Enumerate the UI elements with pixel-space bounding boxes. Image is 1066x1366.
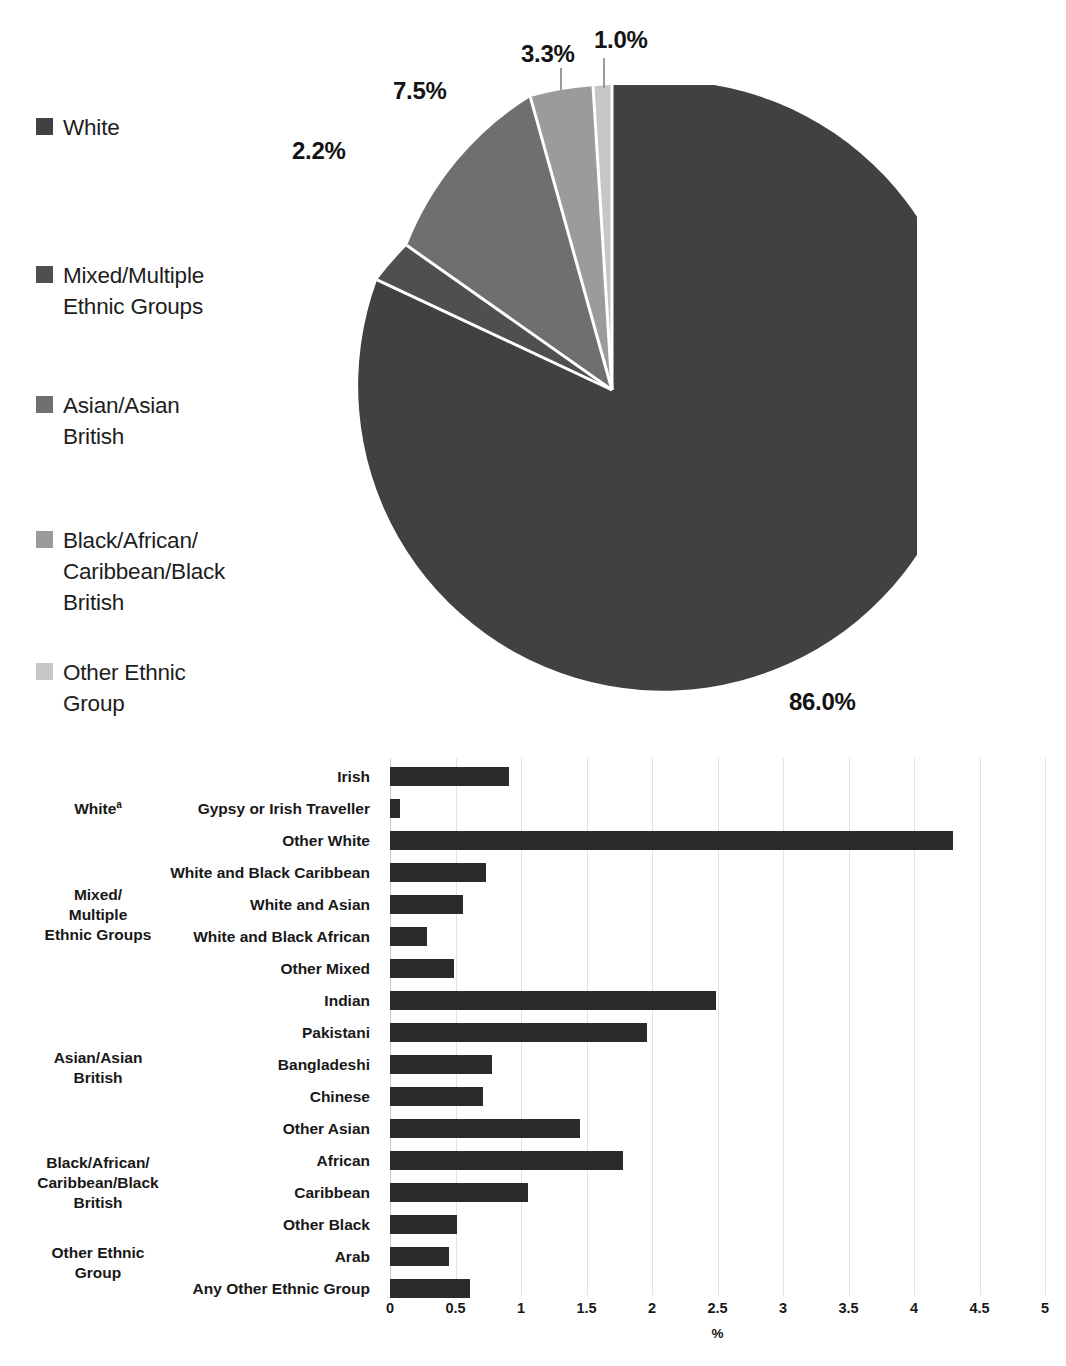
legend-label-asian-line2: British: [63, 424, 124, 449]
x-axis-tick-label: 3: [779, 1300, 787, 1316]
legend-label-mixed: Mixed/Multiple Ethnic Groups: [63, 260, 204, 322]
pie-svg: [307, 85, 917, 695]
legend-label-black-line3: British: [63, 590, 124, 615]
legend-label-black-line1: Black/African/: [63, 528, 198, 553]
legend-label-other-line2: Group: [63, 691, 125, 716]
legend-label-white: White: [63, 112, 120, 143]
legend-swatch-other: [36, 663, 53, 680]
bar[interactable]: [390, 1087, 483, 1106]
bar-x-axis: 00.511.522.533.544.55: [390, 1300, 1045, 1324]
bar[interactable]: [390, 991, 716, 1010]
x-axis-tick-label: 0.5: [445, 1300, 465, 1316]
bar[interactable]: [390, 927, 427, 946]
bar[interactable]: [390, 1183, 528, 1202]
legend-item-mixed[interactable]: Mixed/Multiple Ethnic Groups: [36, 260, 204, 322]
pie-value-label-black: 3.3%: [521, 40, 575, 68]
bar-plot-area: [390, 758, 1045, 1295]
bar[interactable]: [390, 767, 509, 786]
bar-chart-section: Whitea Mixed/ Multiple Ethnic Groups Asi…: [0, 748, 1066, 1366]
bar[interactable]: [390, 895, 463, 914]
x-axis-tick-label: 1.5: [576, 1300, 596, 1316]
pie-value-label-mixed: 2.2%: [292, 137, 346, 165]
legend-label-black: Black/African/ Caribbean/Black British: [63, 525, 225, 618]
legend-swatch-asian: [36, 396, 53, 413]
pie-value-label-asian: 7.5%: [393, 77, 447, 105]
legend-label-black-line2: Caribbean/Black: [63, 559, 225, 584]
bar[interactable]: [390, 1279, 470, 1298]
x-axis-tick-label: 5: [1041, 1300, 1049, 1316]
legend-label-mixed-line2: Ethnic Groups: [63, 294, 203, 319]
bar[interactable]: [390, 1247, 449, 1266]
legend-swatch-black: [36, 531, 53, 548]
bar[interactable]: [390, 1055, 492, 1074]
x-axis-tick-label: 0: [386, 1300, 394, 1316]
pie-value-label-other: 1.0%: [594, 26, 648, 54]
pie-graphic: [307, 85, 917, 695]
legend-label-mixed-line1: Mixed/Multiple: [63, 263, 204, 288]
x-axis-tick-label: 1: [517, 1300, 525, 1316]
pie-slice-white[interactable]: [358, 85, 917, 691]
gridline: [1045, 758, 1046, 1295]
bar[interactable]: [390, 1215, 457, 1234]
x-axis-tick-label: 2: [648, 1300, 656, 1316]
bar[interactable]: [390, 831, 953, 850]
legend-item-white[interactable]: White: [36, 112, 120, 143]
bar-x-axis-title: %: [712, 1326, 724, 1341]
legend-item-other[interactable]: Other Ethnic Group: [36, 657, 186, 719]
legend-label-other: Other Ethnic Group: [63, 657, 186, 719]
legend-swatch-mixed: [36, 266, 53, 283]
bar[interactable]: [390, 1119, 580, 1138]
legend-item-black[interactable]: Black/African/ Caribbean/Black British: [36, 525, 225, 618]
x-axis-tick-label: 4.5: [969, 1300, 989, 1316]
legend-label-asian: Asian/Asian British: [63, 390, 180, 452]
bar-category-labels: Irish Gypsy or Irish Traveller Other Whi…: [0, 758, 378, 1295]
legend-item-asian[interactable]: Asian/Asian British: [36, 390, 180, 452]
bar-category-label: Any Other Ethnic Group: [193, 1270, 370, 1307]
legend-label-other-line1: Other Ethnic: [63, 660, 186, 685]
pie-chart-section: White Mixed/Multiple Ethnic Groups Asian…: [0, 0, 1066, 750]
legend-label-asian-line1: Asian/Asian: [63, 393, 180, 418]
leader-line-other: [603, 58, 605, 88]
bar[interactable]: [390, 799, 400, 818]
bar[interactable]: [390, 863, 486, 882]
bar[interactable]: [390, 1151, 623, 1170]
legend-swatch-white: [36, 118, 53, 135]
leader-line-black: [560, 68, 562, 90]
bar[interactable]: [390, 1023, 647, 1042]
bar[interactable]: [390, 959, 454, 978]
pie-value-label-white: 86.0%: [789, 688, 856, 716]
chart-page: White Mixed/Multiple Ethnic Groups Asian…: [0, 0, 1066, 1366]
x-axis-tick-label: 2.5: [707, 1300, 727, 1316]
x-axis-tick-label: 3.5: [838, 1300, 858, 1316]
x-axis-tick-label: 4: [910, 1300, 918, 1316]
